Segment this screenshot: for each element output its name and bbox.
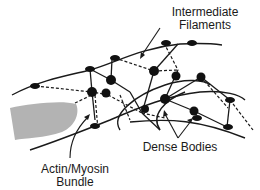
label-intermediate-filaments: Intermediate Filaments bbox=[165, 6, 245, 32]
label-line: Filaments bbox=[165, 19, 245, 32]
label-line: Dense Bodies bbox=[140, 141, 220, 154]
label-line: Bundle bbox=[30, 176, 120, 189]
label-actin-myosin-bundle: Actin/Myosin Bundle bbox=[30, 163, 120, 189]
label-dense-bodies: Dense Bodies bbox=[140, 141, 220, 154]
nucleus-shape bbox=[10, 102, 77, 140]
smooth-muscle-diagram: Intermediate Filaments Actin/Myosin Bund… bbox=[0, 0, 260, 190]
arrowheads bbox=[84, 52, 193, 123]
